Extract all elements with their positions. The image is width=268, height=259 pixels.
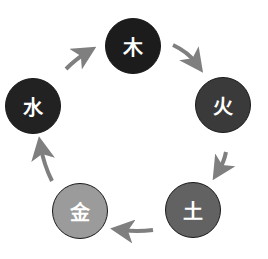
arrow-fire-to-earth (219, 152, 226, 170)
node-wood: 木 (105, 18, 161, 74)
arrow-wood-to-fire (173, 45, 196, 63)
node-water: 水 (5, 78, 61, 134)
node-label-earth: 土 (183, 196, 203, 225)
node-label-fire: 火 (213, 91, 233, 120)
arrow-metal-to-water (41, 148, 52, 181)
arrow-earth-to-metal (122, 230, 153, 231)
node-label-wood: 木 (123, 32, 143, 61)
node-label-metal: 金 (70, 197, 90, 226)
node-earth: 土 (165, 182, 221, 238)
node-label-water: 水 (23, 92, 43, 121)
node-fire: 火 (195, 77, 251, 133)
arrow-water-to-wood (66, 53, 86, 69)
node-metal: 金 (52, 183, 108, 239)
